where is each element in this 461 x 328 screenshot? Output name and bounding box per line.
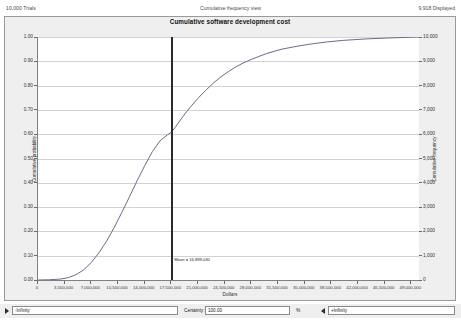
- y-tick-label-right: 6,000: [423, 131, 453, 136]
- displayed-count: 9,918 Displayed: [418, 5, 455, 11]
- x-tick-label: 42,000,000: [346, 285, 368, 290]
- x-tick-mark: [64, 281, 65, 284]
- x-tick-label: 49,000,000: [400, 285, 422, 290]
- minimum-value-input[interactable]: -Infinity: [12, 306, 178, 315]
- tick-mark: [419, 207, 422, 208]
- tick-mark: [419, 231, 422, 232]
- chart-header: 10,000 Trials Cumulative frequency view …: [0, 5, 461, 16]
- x-tick-label: 24,500,000: [213, 285, 235, 290]
- x-tick-label: 31,500,000: [266, 285, 288, 290]
- y-tick-label-right: 8,000: [423, 83, 453, 88]
- y-tick-label-left: 0.10: [7, 253, 33, 258]
- triangle-left-icon[interactable]: [321, 308, 325, 314]
- tick-mark: [419, 158, 422, 159]
- y-tick-label-right: 1,000: [423, 253, 453, 258]
- x-tick-mark: [330, 281, 331, 284]
- x-tick-label: 38,500,000: [320, 285, 342, 290]
- x-tick-label: 0: [36, 285, 38, 290]
- tick-mark: [419, 61, 422, 62]
- y-tick-label-right: 10,000: [423, 34, 453, 39]
- x-tick-mark: [384, 281, 385, 284]
- tick-mark: [419, 134, 422, 135]
- y-tick-label-right: 0: [423, 277, 453, 282]
- x-tick-mark: [144, 281, 145, 284]
- x-tick-label: 21,000,000: [186, 285, 208, 290]
- y-tick-label-left: 0.20: [7, 228, 33, 233]
- y-tick-label-left: 0.70: [7, 107, 33, 112]
- x-tick-label: 10,500,000: [106, 285, 128, 290]
- y-tick-label-left: 0.30: [7, 204, 33, 209]
- tick-mark: [419, 85, 422, 86]
- y-tick-label-right: 2,000: [423, 228, 453, 233]
- y-tick-label-left: 0.50: [7, 156, 33, 161]
- cumulative-frequency-chart-window: 10,000 Trials Cumulative frequency view …: [0, 0, 461, 328]
- certainty-control-bar: -Infinity Certainty: 100.00 % +Infinity: [0, 304, 461, 318]
- x-tick-label: 7,000,000: [81, 285, 100, 290]
- x-tick-mark: [224, 281, 225, 284]
- x-tick-mark: [277, 281, 278, 284]
- view-name: Cumulative frequency view: [0, 5, 461, 11]
- x-tick-mark: [170, 281, 171, 284]
- cumulative-curve: [38, 37, 419, 280]
- chart-title: Cumulative software development cost: [5, 18, 455, 25]
- x-tick-mark: [197, 281, 198, 284]
- x-tick-mark: [90, 281, 91, 284]
- x-axis-label: Dollars: [5, 292, 455, 297]
- tick-mark: [419, 109, 422, 110]
- tick-mark: [419, 255, 422, 256]
- percent-symbol: %: [296, 306, 300, 315]
- chart-frame: Cumulative software development cost Cum…: [4, 16, 456, 301]
- x-tick-mark: [304, 281, 305, 284]
- y-tick-label-left: 1.00: [7, 34, 33, 39]
- x-tick-mark: [37, 281, 38, 284]
- y-tick-label-right: 7,000: [423, 107, 453, 112]
- x-tick-label: 35,000,000: [293, 285, 315, 290]
- x-tick-mark: [117, 281, 118, 284]
- tick-mark: [419, 182, 422, 183]
- x-tick-label: 17,500,000: [160, 285, 182, 290]
- y-tick-label-left: 0.60: [7, 131, 33, 136]
- y-tick-label-left: 0.00: [7, 277, 33, 282]
- x-tick-mark: [357, 281, 358, 284]
- y-tick-label-right: 3,000: [423, 204, 453, 209]
- certainty-label: Certainty:: [184, 306, 205, 315]
- y-tick-label-right: 9,000: [423, 58, 453, 63]
- x-tick-label: 28,000,000: [240, 285, 262, 290]
- y-tick-label-left: 0.90: [7, 58, 33, 63]
- x-tick-mark: [250, 281, 251, 284]
- x-tick-label: 3,500,000: [54, 285, 73, 290]
- x-tick-mark: [410, 281, 411, 284]
- reference-line-label: Mean = 16,899,030: [173, 257, 210, 262]
- tick-mark: [419, 37, 422, 38]
- x-tick-label: 45,500,000: [373, 285, 395, 290]
- x-tick-label: 14,000,000: [133, 285, 155, 290]
- triangle-right-icon[interactable]: [5, 308, 9, 314]
- y-tick-label-left: 0.40: [7, 180, 33, 185]
- tick-mark: [419, 280, 422, 281]
- maximum-value-input[interactable]: +Infinity: [328, 306, 455, 315]
- plot-area[interactable]: Mean = 16,899,030: [37, 37, 419, 281]
- reference-line[interactable]: [171, 37, 172, 280]
- certainty-input[interactable]: 100.00: [205, 306, 290, 315]
- y-tick-label-right: 5,000: [423, 156, 453, 161]
- y-tick-label-right: 4,000: [423, 180, 453, 185]
- y-tick-label-left: 0.80: [7, 83, 33, 88]
